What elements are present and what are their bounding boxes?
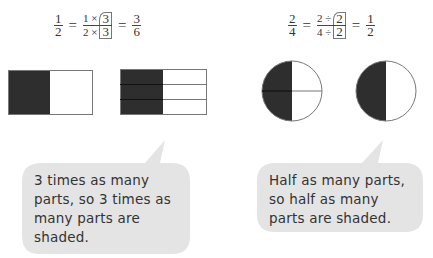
circle-one-half xyxy=(356,61,416,121)
rectangle-one-half xyxy=(8,70,93,115)
rectangle-three-sixths xyxy=(120,69,207,115)
bubble-text-left: 3 times as many parts, so 3 times as man… xyxy=(34,171,171,247)
circle-two-quarters xyxy=(262,61,322,121)
bubble-text-right: Half as many parts, so half as many part… xyxy=(269,171,405,228)
